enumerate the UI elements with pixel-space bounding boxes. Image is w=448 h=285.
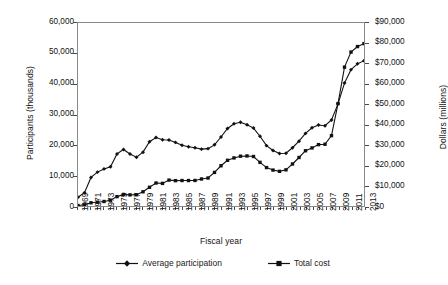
y-axis-left-tick-label: 30,000 [49, 109, 74, 118]
x-axis-tick-label: 1977 [133, 193, 142, 211]
y-axis-left-tick-mark [73, 145, 77, 146]
x-axis-tick-mark [116, 207, 117, 210]
x-axis-tick-mark [129, 207, 130, 210]
y-axis-right-tick-label: $70,000 [375, 58, 405, 67]
data-point [317, 143, 320, 146]
x-axis-tick-mark [260, 207, 261, 210]
x-axis-tick-mark [208, 207, 209, 210]
x-axis-tick-label: 1973 [107, 193, 116, 211]
chart-legend: Average participation Total cost [0, 258, 446, 268]
data-point [304, 149, 307, 152]
data-point [356, 45, 359, 48]
x-axis-tick-label: 1981 [159, 193, 168, 211]
data-point [343, 81, 347, 85]
x-axis-tick-label: 2011 [355, 193, 364, 211]
y-axis-right-tick-mark [365, 166, 369, 167]
x-axis-tick-mark [300, 207, 301, 210]
y-axis-left-tick-mark [73, 53, 77, 54]
x-axis-tick-mark [234, 207, 235, 210]
data-point [161, 138, 165, 142]
x-axis-tick-label: 1997 [264, 193, 273, 211]
data-point [336, 102, 339, 105]
data-point [297, 156, 300, 159]
x-axis-tick-mark [169, 207, 170, 210]
x-axis-tick-label: 2007 [329, 193, 338, 211]
data-point [343, 65, 346, 68]
x-axis-tick-label: 2009 [342, 193, 351, 211]
data-point [278, 152, 282, 156]
y-axis-left-tick-mark [73, 84, 77, 85]
data-point [167, 138, 171, 142]
y-axis-left-tick-mark [73, 176, 77, 177]
y-axis-right-title: Dollars (millions) [438, 32, 448, 202]
series-line-2 [78, 44, 364, 206]
x-axis-tick-label: 1993 [238, 193, 247, 211]
data-point [349, 50, 352, 53]
square-marker-icon [268, 259, 290, 268]
series-line-1 [78, 61, 364, 198]
data-point [167, 178, 170, 181]
data-point [291, 162, 294, 165]
x-axis-tick-mark [326, 207, 327, 210]
y-axis-right-tick-mark [365, 22, 369, 23]
x-axis-tick-label: 1975 [120, 193, 129, 211]
legend-item-total-cost[interactable]: Total cost [268, 258, 330, 268]
data-point [174, 179, 177, 182]
x-axis-tick-label: 1991 [225, 193, 234, 211]
data-point [154, 181, 157, 184]
data-point [252, 155, 255, 158]
x-axis-title: Fiscal year [77, 236, 365, 246]
data-point [258, 161, 261, 164]
y-axis-left-tick-label: 0 [69, 202, 74, 211]
data-point [330, 134, 333, 137]
data-point [200, 177, 203, 180]
data-point [278, 170, 281, 173]
data-point [271, 168, 274, 171]
legend-item-average-participation[interactable]: Average participation [116, 258, 222, 268]
y-axis-left-tick-mark [73, 22, 77, 23]
x-axis-tick-label: 1971 [94, 193, 103, 211]
data-point [239, 120, 243, 124]
series-canvas [78, 23, 364, 206]
x-axis-tick-mark [339, 207, 340, 210]
x-axis-tick-label: 1969 [81, 193, 90, 211]
y-axis-right-tick-label: $20,000 [375, 160, 405, 169]
data-point [161, 182, 164, 185]
y-axis-left-tick-mark [73, 115, 77, 116]
data-point [206, 176, 209, 179]
x-axis-tick-label: 1979 [146, 193, 155, 211]
x-axis-tick-mark [182, 207, 183, 210]
x-axis-tick-mark [90, 207, 91, 210]
data-point [200, 147, 204, 151]
data-point [180, 179, 183, 182]
y-axis-left-tick-label: 20,000 [49, 140, 74, 149]
y-axis-left-tick-label: 10,000 [49, 171, 74, 180]
y-axis-left-tick-label: 50,000 [49, 47, 74, 56]
x-axis-tick-mark [221, 207, 222, 210]
data-point [78, 204, 80, 206]
diamond-marker-icon [116, 259, 138, 268]
data-point [239, 155, 242, 158]
data-point [232, 156, 235, 159]
data-point [174, 140, 178, 144]
data-point [102, 167, 106, 171]
data-point [187, 145, 191, 149]
legend-label-total-cost: Total cost [294, 258, 330, 268]
data-point [265, 166, 268, 169]
data-point [323, 143, 326, 146]
data-point [284, 168, 287, 171]
x-axis-tick-label: 1989 [211, 193, 220, 211]
y-axis-right-tick-label: $80,000 [375, 37, 405, 46]
x-axis-tick-mark [313, 207, 314, 210]
y-axis-right-tick-mark [365, 125, 369, 126]
x-axis-tick-mark [273, 207, 274, 210]
y-axis-right-tick-label: $50,000 [375, 99, 405, 108]
y-axis-right-tick-mark [365, 145, 369, 146]
y-axis-right-tick-mark [365, 63, 369, 64]
plot-area [77, 22, 365, 207]
data-point [193, 179, 196, 182]
x-axis-tick-mark [156, 207, 157, 210]
x-axis-tick-mark [103, 207, 104, 210]
x-axis-tick-label: 2013 [369, 193, 378, 211]
